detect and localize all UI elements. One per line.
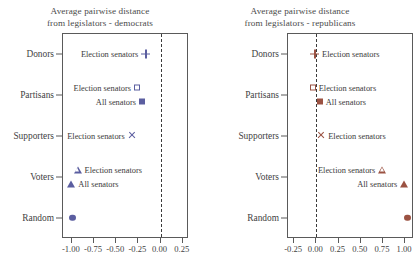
panel-title-line1: Average pairwise distance — [0, 6, 200, 18]
data-point-group: Election senators — [81, 49, 150, 58]
ytick-mark — [56, 135, 62, 136]
xtick-mark — [360, 238, 361, 243]
xtick-label: -0.25 — [128, 245, 146, 254]
ytick-mark — [281, 94, 287, 95]
data-point-label: Election senators — [81, 49, 138, 58]
filled-square-marker-icon — [317, 99, 323, 105]
data-point-label: Election senators — [67, 131, 124, 140]
panel-title-line1: Average pairwise distance — [200, 6, 400, 18]
data-point-group: All senators — [317, 97, 366, 106]
ytick-mark — [56, 176, 62, 177]
data-point-label: Election senators — [328, 131, 385, 140]
xtick-mark — [137, 238, 138, 243]
ytick-mark — [56, 94, 62, 95]
xtick-label: -1.00 — [62, 245, 80, 254]
xtick-mark — [160, 238, 161, 243]
cross-marker-icon — [128, 132, 136, 140]
cross-marker-icon — [317, 132, 325, 140]
xtick-mark — [182, 238, 183, 243]
data-point-group: Election senators — [310, 49, 379, 58]
ytick-label-donors: Donors — [227, 49, 279, 59]
data-point-group — [404, 214, 410, 220]
xtick-mark — [338, 238, 339, 243]
data-point-group: Election senators — [310, 83, 376, 92]
xtick-label: 0.25 — [174, 245, 189, 254]
data-point-label: Election senators — [74, 83, 131, 92]
open-triangle-marker-icon — [74, 166, 82, 173]
circle-marker-icon — [69, 214, 75, 220]
data-point-label: All senators — [96, 97, 136, 106]
xtick-label: 1.00 — [397, 245, 412, 254]
xtick-mark — [382, 238, 383, 243]
xtick-label: -0.75 — [84, 245, 102, 254]
xtick-label: -0.50 — [106, 245, 124, 254]
xtick-label: -0.25 — [284, 245, 302, 254]
data-point-group: Election senators — [317, 131, 385, 140]
ytick-mark — [281, 53, 287, 54]
xtick-label: 0.75 — [374, 245, 389, 254]
panel-title-republicans: Average pairwise distance from legislato… — [200, 6, 400, 29]
ytick-label-supporters: Supporters — [227, 131, 279, 141]
filled-square-marker-icon — [139, 99, 145, 105]
xtick-mark — [293, 238, 294, 243]
data-point-group: Election senators — [318, 165, 386, 174]
xtick-mark — [71, 238, 72, 243]
data-point-label: Election senators — [322, 49, 379, 58]
ytick-mark — [281, 217, 287, 218]
data-point-label: Election senators — [318, 165, 375, 174]
plus-marker-icon — [310, 49, 319, 58]
ytick-mark — [56, 217, 62, 218]
ytick-mark — [281, 135, 287, 136]
data-point-group: Election senators — [67, 131, 135, 140]
ytick-label-donors: Donors — [2, 49, 54, 59]
data-point-group — [69, 214, 75, 220]
zero-reference-line — [161, 34, 162, 237]
xtick-label: 0.25 — [330, 245, 345, 254]
data-point-label: Election senators — [319, 83, 376, 92]
xtick-label: 0.50 — [352, 245, 367, 254]
open-triangle-marker-icon — [378, 166, 386, 173]
data-point-group: All senators — [96, 97, 145, 106]
data-point-label: All senators — [357, 179, 397, 188]
xtick-mark — [315, 238, 316, 243]
open-square-marker-icon — [134, 85, 140, 91]
plus-marker-icon — [141, 49, 150, 58]
data-point-label: All senators — [326, 97, 366, 106]
xtick-label: 0.00 — [308, 245, 323, 254]
circle-marker-icon — [404, 214, 410, 220]
data-point-label: Election senators — [85, 165, 142, 174]
ytick-mark — [56, 53, 62, 54]
ytick-mark — [281, 176, 287, 177]
open-square-marker-icon — [310, 85, 316, 91]
filled-triangle-marker-icon — [400, 180, 408, 187]
panel-title-line2: from legislators - republicans — [200, 18, 400, 30]
xtick-mark — [93, 238, 94, 243]
ytick-label-voters: Voters — [2, 172, 54, 182]
data-point-group: Election senators — [74, 83, 140, 92]
data-point-group: Election senators — [74, 165, 142, 174]
xtick-mark — [115, 238, 116, 243]
panel-title-democrats: Average pairwise distance from legislato… — [0, 6, 200, 29]
ytick-label-random: Random — [227, 213, 279, 223]
data-point-label: All senators — [78, 179, 118, 188]
ytick-label-partisans: Partisans — [227, 90, 279, 100]
panel-title-line2: from legislators - democrats — [0, 18, 200, 30]
xtick-mark — [404, 238, 405, 243]
ytick-label-partisans: Partisans — [2, 90, 54, 100]
ytick-label-random: Random — [2, 213, 54, 223]
ytick-label-supporters: Supporters — [2, 131, 54, 141]
xtick-label: 0.00 — [152, 245, 167, 254]
data-point-group: All senators — [357, 179, 408, 188]
filled-triangle-marker-icon — [67, 180, 75, 187]
ytick-label-voters: Voters — [227, 172, 279, 182]
data-point-group: All senators — [67, 179, 118, 188]
